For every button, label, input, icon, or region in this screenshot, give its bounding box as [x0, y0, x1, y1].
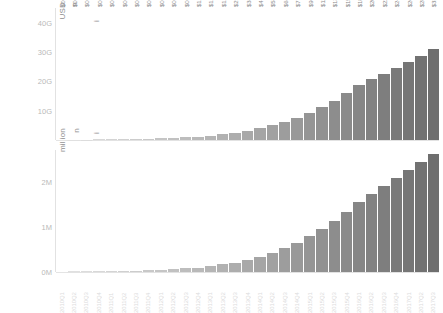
bar[interactable]: [279, 122, 290, 140]
bar-item[interactable]: $11.17B: [316, 8, 327, 140]
bar[interactable]: [378, 186, 389, 272]
bar[interactable]: [267, 125, 278, 140]
bar-item[interactable]: [353, 150, 364, 272]
bar[interactable]: [93, 271, 104, 272]
bar[interactable]: [130, 139, 141, 140]
bar[interactable]: [254, 128, 265, 140]
bar[interactable]: [229, 133, 240, 140]
bar-item[interactable]: [378, 150, 389, 272]
bar[interactable]: [168, 269, 179, 272]
bar[interactable]: [229, 263, 240, 272]
bar-item[interactable]: [130, 150, 141, 272]
bar-item[interactable]: $5.04B: [267, 8, 278, 140]
bar[interactable]: [378, 74, 389, 140]
bar-item[interactable]: [391, 150, 402, 272]
bar-item[interactable]: $0.25B: [106, 8, 117, 140]
bar[interactable]: [391, 68, 402, 140]
bar[interactable]: [68, 271, 79, 272]
bar[interactable]: [106, 271, 117, 272]
bar-item[interactable]: [415, 150, 426, 272]
bar-item[interactable]: $6.21B: [279, 8, 290, 140]
bar[interactable]: [341, 93, 352, 140]
bar[interactable]: [81, 271, 92, 272]
bar-item[interactable]: [229, 150, 240, 272]
bar-item[interactable]: $0.57B: [155, 8, 166, 140]
bar[interactable]: [155, 138, 166, 140]
bar-item[interactable]: [279, 150, 290, 272]
bar-item[interactable]: [81, 150, 92, 272]
bar-item[interactable]: $0.17B: [81, 8, 92, 140]
bar-item[interactable]: $26.61B: [403, 8, 414, 140]
bar[interactable]: [143, 139, 154, 140]
bar[interactable]: [428, 49, 439, 141]
bar[interactable]: [415, 162, 426, 272]
bar[interactable]: [391, 178, 402, 272]
bar[interactable]: [118, 139, 129, 140]
bar-item[interactable]: [168, 150, 179, 272]
bar-item[interactable]: [93, 150, 104, 272]
bar-item[interactable]: $0.71B: [168, 8, 179, 140]
bar-item[interactable]: $0.30B: [118, 8, 129, 140]
bar-item[interactable]: $4.03B: [254, 8, 265, 140]
bar[interactable]: [81, 140, 92, 141]
bar-item[interactable]: $22.66B: [378, 8, 389, 140]
bar[interactable]: [155, 270, 166, 272]
bar[interactable]: [329, 221, 340, 272]
bar[interactable]: [168, 138, 179, 140]
bar-item[interactable]: $1.53B: [205, 8, 216, 140]
bar-item[interactable]: [304, 150, 315, 272]
bar-item[interactable]: [143, 150, 154, 272]
bar[interactable]: [353, 85, 364, 140]
bar-item[interactable]: [316, 150, 327, 272]
bar-item[interactable]: $2.54B: [229, 8, 240, 140]
bar-item[interactable]: $1.98B: [217, 8, 228, 140]
bar[interactable]: [180, 268, 191, 272]
bar[interactable]: [415, 56, 426, 140]
bar-item[interactable]: $3.24B: [242, 8, 253, 140]
bar-item[interactable]: [205, 150, 216, 272]
bar-item[interactable]: [267, 150, 278, 272]
bar-item[interactable]: [366, 150, 377, 272]
bar-item[interactable]: $18.73B: [353, 8, 364, 140]
bar[interactable]: [217, 134, 228, 140]
bar-item[interactable]: $28.75B: [415, 8, 426, 140]
bar[interactable]: [428, 154, 439, 272]
bar-item[interactable]: [68, 150, 79, 272]
bar-item[interactable]: [106, 150, 117, 272]
bar-item[interactable]: $9.26B: [304, 8, 315, 140]
bar[interactable]: [291, 243, 302, 272]
bar[interactable]: [279, 248, 290, 272]
bar[interactable]: [366, 194, 377, 272]
bar-item[interactable]: $0.37B: [130, 8, 141, 140]
bar-item[interactable]: [192, 150, 203, 272]
bar-item[interactable]: $0.20B: [93, 8, 104, 140]
bar[interactable]: [316, 107, 327, 140]
bar-item[interactable]: $24.65B: [391, 8, 402, 140]
bar[interactable]: [329, 101, 340, 140]
bar-item[interactable]: [341, 150, 352, 272]
bar-item[interactable]: [403, 150, 414, 272]
bar-item[interactable]: [118, 150, 129, 272]
bar-item[interactable]: $0.91B: [180, 8, 191, 140]
bar-item[interactable]: [291, 150, 302, 272]
bar[interactable]: [205, 266, 216, 272]
bar[interactable]: [304, 236, 315, 272]
bar-item[interactable]: $13.40B: [329, 8, 340, 140]
bar-item[interactable]: [217, 150, 228, 272]
bar[interactable]: [403, 62, 414, 140]
bar[interactable]: [118, 271, 129, 272]
bar[interactable]: [366, 79, 377, 140]
bar[interactable]: [242, 131, 253, 141]
bar[interactable]: [93, 139, 104, 140]
bar-item[interactable]: $15.99B: [341, 8, 352, 140]
bar-item[interactable]: $31.20B: [428, 8, 439, 140]
bar[interactable]: [304, 113, 315, 140]
bar[interactable]: [143, 270, 154, 272]
bar-item[interactable]: [242, 150, 253, 272]
bar[interactable]: [242, 260, 253, 272]
bar[interactable]: [316, 229, 327, 272]
bar[interactable]: [192, 268, 203, 273]
bar-item[interactable]: [254, 150, 265, 272]
bar[interactable]: [267, 253, 278, 272]
bar-item[interactable]: [180, 150, 191, 272]
